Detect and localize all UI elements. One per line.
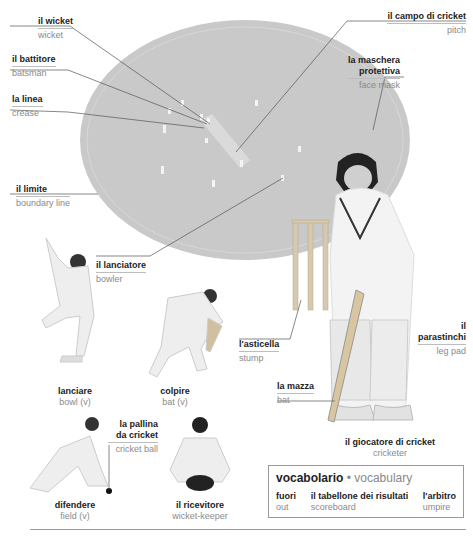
vocabulary-title-it: vocabolario <box>276 471 343 485</box>
label-it: il limite <box>16 184 70 197</box>
label-it: il ricevitore <box>155 500 245 511</box>
vocabulary-item: l'arbitro umpire <box>423 491 456 513</box>
label-bowl-verb: lanciare bowl (v) <box>40 386 110 408</box>
bowler-photo <box>42 238 94 362</box>
label-en: crease <box>12 108 43 119</box>
label-en: bowler <box>96 274 146 285</box>
stumps-illustration <box>292 220 329 310</box>
label-batsman: il battitore batsman <box>12 54 56 79</box>
label-it: parastinchi <box>418 332 466 345</box>
vocabulary-item: il tabellone dei risultati scoreboard <box>311 491 409 513</box>
vocabulary-items: fuori out il tabellone dei risultati sco… <box>276 491 456 513</box>
label-cricket-ball: la pallina da cricket cricket ball <box>108 419 158 455</box>
bottom-divider <box>30 529 466 530</box>
label-field-verb: difendere field (v) <box>40 500 110 522</box>
label-bat: la mazza bat <box>277 381 314 406</box>
label-en: wicket-keeper <box>155 511 245 522</box>
label-it: da cricket <box>108 430 158 443</box>
label-it: l'asticella <box>239 339 279 352</box>
label-wicket-keeper: il ricevitore wicket-keeper <box>155 500 245 522</box>
label-bat-verb: colpire bat (v) <box>140 386 210 408</box>
label-it: difendere <box>40 500 110 511</box>
vocabulary-title-en: vocabulary <box>354 471 412 485</box>
label-it: protettiva <box>348 66 400 79</box>
vocab-en: scoreboard <box>311 502 409 513</box>
label-pitch: il campo di cricket pitch <box>387 11 466 36</box>
label-it: colpire <box>140 386 210 397</box>
label-it: la mazza <box>277 381 314 394</box>
vocab-it: il tabellone dei risultati <box>311 491 409 502</box>
label-it: il <box>418 321 466 332</box>
label-it: il campo di cricket <box>387 11 466 24</box>
label-it: il lanciatore <box>96 260 146 273</box>
cricketer-photo <box>328 153 414 422</box>
vocabulary-item: fuori out <box>276 491 296 513</box>
label-it: lanciare <box>40 386 110 397</box>
label-en: wicket <box>38 30 73 41</box>
fielding-player-photo <box>30 417 108 492</box>
label-en: cricket ball <box>108 444 158 455</box>
label-it: la linea <box>12 94 43 107</box>
label-it: il wicket <box>38 16 73 29</box>
label-it: la maschera <box>348 55 400 66</box>
label-it: il giocatore di cricket <box>320 437 460 448</box>
wicket-keeper-photo <box>170 417 230 491</box>
label-it: il battitore <box>12 54 56 67</box>
vocabulary-title: vocabolario • vocabulary <box>276 471 456 485</box>
label-face-mask: la maschera protettiva face mask <box>348 55 400 91</box>
label-stump: l'asticella stump <box>239 339 279 364</box>
label-boundary-line: il limite boundary line <box>16 184 70 209</box>
vocab-en: umpire <box>423 502 456 513</box>
label-en: leg pad <box>418 346 466 357</box>
vocab-it: l'arbitro <box>423 491 456 502</box>
label-cricketer: il giocatore di cricket cricketer <box>320 437 460 459</box>
label-en: field (v) <box>40 511 110 522</box>
label-en: face mask <box>348 80 400 91</box>
vocab-en: out <box>276 502 296 513</box>
label-en: stump <box>239 353 279 364</box>
label-en: bowl (v) <box>40 397 110 408</box>
label-en: batsman <box>12 68 56 79</box>
label-en: bat <box>277 395 314 406</box>
label-en: bat (v) <box>140 397 210 408</box>
label-it: la pallina <box>108 419 158 430</box>
label-wicket: il wicket wicket <box>38 16 73 41</box>
label-en: boundary line <box>16 198 70 209</box>
vocab-it: fuori <box>276 491 296 502</box>
label-en: pitch <box>387 25 466 36</box>
label-crease: la linea crease <box>12 94 43 119</box>
bullet-separator: • <box>347 471 351 485</box>
label-en: cricketer <box>320 448 460 459</box>
batting-player-photo <box>149 289 223 377</box>
label-leg-pad: il parastinchi leg pad <box>418 321 466 357</box>
vocabulary-box: vocabolario • vocabulary fuori out il ta… <box>268 465 464 518</box>
label-bowler: il lanciatore bowler <box>96 260 146 285</box>
